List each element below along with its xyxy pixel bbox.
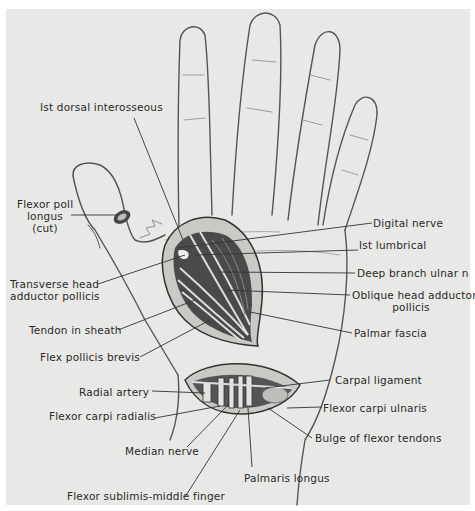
label-line: longus (17, 210, 73, 222)
forearm-radial-edge (170, 375, 179, 440)
label-line: Flexor poll (17, 198, 73, 210)
label-line: (cut) (17, 222, 73, 234)
label-flexor-carpi-ulnaris: Flexor carpi ulnaris (323, 402, 427, 414)
label-bulge-of-flexor-tendons: Bulge of flexor tendons (315, 432, 442, 444)
thumb-outline (73, 163, 165, 242)
palm-ulnar-edge (297, 230, 347, 505)
label-digital-nerve: Digital nerve (373, 217, 443, 229)
label-radial-artery: Radial artery (79, 386, 149, 398)
label-line: Transverse head (10, 278, 100, 290)
label-flexor-carpi-radialis: Flexor carpi radialis (49, 410, 156, 422)
label-palmaris-longus: Palmaris longus (244, 472, 330, 484)
label-transverse-head-adductor-pollicis: Transverse head adductor pollicis (10, 278, 100, 302)
label-line: Oblique head adductor (352, 289, 470, 301)
label-carpal-ligament: Carpal ligament (335, 374, 422, 386)
label-1st-dorsal-interosseous: Ist dorsal interosseous (40, 101, 163, 113)
label-median-nerve: Median nerve (125, 445, 199, 457)
wrist-incision (185, 364, 300, 414)
label-palmar-fascia: Palmar fascia (354, 327, 427, 339)
label-flex-pollicis-brevis: Flex pollicis brevis (40, 351, 140, 363)
label-line: adductor pollicis (10, 290, 100, 302)
label-line: pollicis (352, 301, 470, 313)
label-oblique-head-adductor-pollicis: Oblique head adductor pollicis (352, 289, 470, 313)
label-deep-branch-ulnar-n: Deep branch ulnar n (357, 267, 469, 279)
little-finger-outline (323, 97, 377, 230)
label-flexor-poll-longus: Flexor poll longus (cut) (17, 198, 73, 234)
middle-finger-outline (232, 13, 281, 215)
palmar-incision (162, 217, 262, 346)
label-1st-lumbrical: Ist lumbrical (359, 239, 426, 251)
flexor-poll-longus-stump (111, 207, 133, 226)
label-flexor-sublimis-middle-finger: Flexor sublimis-middle finger (67, 490, 225, 502)
label-tendon-in-sheath: Tendon in sheath (29, 324, 122, 336)
ring-finger-outline (288, 32, 340, 225)
